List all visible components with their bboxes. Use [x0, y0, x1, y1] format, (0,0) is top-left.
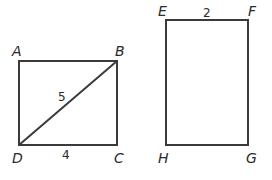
vertex-label-b: B — [115, 44, 125, 58]
vertex-label-c: C — [114, 151, 124, 165]
diagram-canvas — [0, 0, 272, 180]
vertex-label-d: D — [12, 151, 23, 165]
vertex-label-h: H — [158, 151, 169, 165]
diagonal-bd-length: 5 — [58, 91, 66, 103]
side-ef-length: 2 — [203, 7, 211, 19]
vertex-label-f: F — [248, 4, 256, 18]
diagonal-bd — [19, 61, 117, 145]
vertex-label-a: A — [12, 44, 22, 58]
vertex-label-e: E — [158, 4, 167, 18]
rectangle-efgh — [166, 20, 248, 145]
side-dc-length: 4 — [62, 149, 70, 161]
vertex-label-g: G — [246, 151, 257, 165]
